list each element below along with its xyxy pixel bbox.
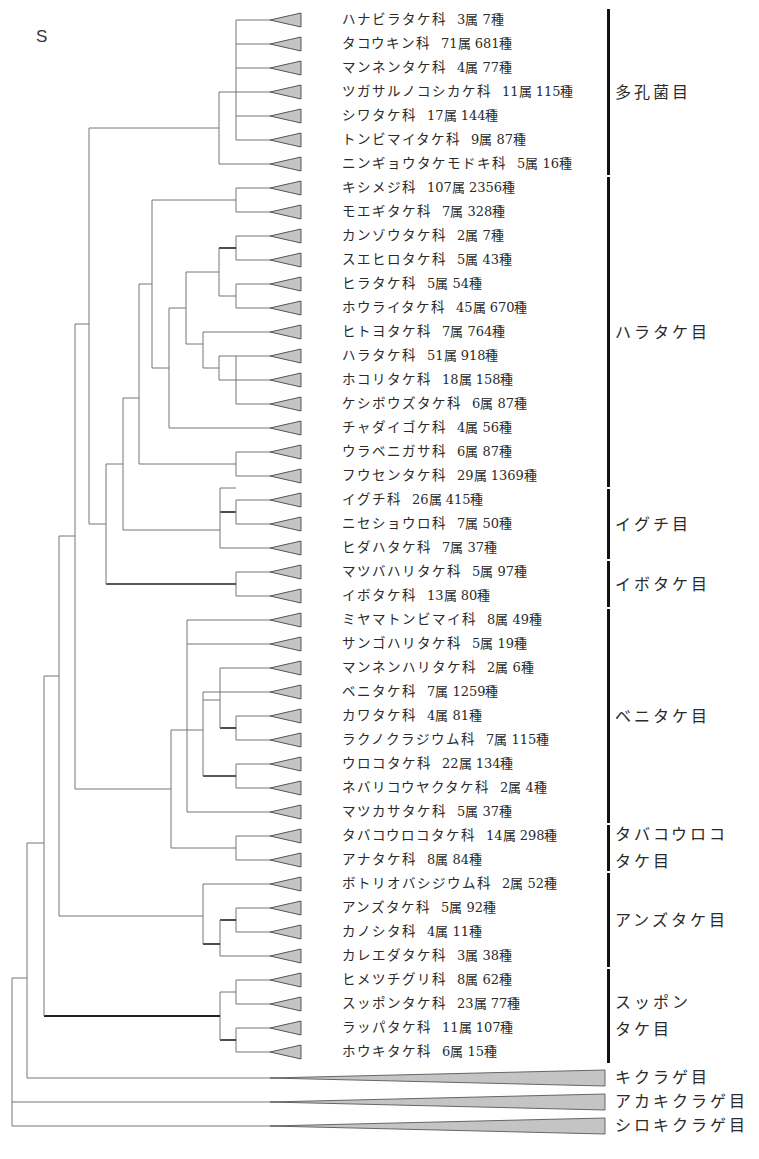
collapsed-clade-triangle-icon [270, 637, 301, 651]
collapsed-clade-triangle-icon [270, 157, 301, 171]
family-name: スエヒロタケ科 [342, 251, 447, 267]
genus-species-count: 4属 56種 [457, 420, 512, 435]
family-label: ホコリタケ科18属 158種 [342, 371, 514, 388]
outgroup-clade-triangle-icon [270, 1118, 605, 1134]
collapsed-clade-triangle-icon [270, 109, 301, 123]
family-name: フウセンタケ科 [342, 467, 447, 483]
family-label: ネバリコウヤクタケ科2属 4種 [342, 779, 547, 796]
collapsed-clade-triangle-icon [270, 13, 301, 27]
family-name: チャダイゴケ科 [342, 419, 447, 435]
genus-species-count: 2属 4種 [500, 780, 547, 795]
collapsed-clade-triangle-icon [270, 517, 301, 531]
collapsed-clade-triangle-icon [270, 805, 301, 819]
family-label: アンズタケ科5属 92種 [342, 899, 496, 916]
family-name: トンビマイタケ科 [342, 131, 461, 147]
family-label: アナタケ科8属 84種 [342, 851, 482, 868]
genus-species-count: 5属 37種 [457, 804, 512, 819]
order-label: スッポンタケ目 [615, 989, 691, 1043]
family-label: フウセンタケ科29属 1369種 [342, 467, 537, 484]
order-label: イボタケ目 [615, 571, 710, 598]
collapsed-clade-triangle-icon [270, 733, 301, 747]
collapsed-clade-triangle-icon [270, 397, 301, 411]
family-label: カノシタ科4属 11種 [342, 923, 482, 940]
family-label: カワタケ科4属 81種 [342, 707, 482, 724]
order-label-line: アンズタケ目 [615, 907, 728, 934]
family-name: ハナビラタケ科 [342, 11, 447, 27]
order-label-line: タバコウロコ [615, 821, 728, 848]
genus-species-count: 6属 87種 [472, 396, 527, 411]
collapsed-clade-triangle-icon [270, 61, 301, 75]
order-label: ベニタケ目 [615, 703, 710, 730]
family-name: キシメジ科 [342, 179, 417, 195]
genus-species-count: 107属 2356種 [427, 180, 515, 195]
family-label: マツカサタケ科5属 37種 [342, 803, 512, 820]
order-bracket-bar [607, 9, 610, 175]
genus-species-count: 4属 81種 [427, 708, 482, 723]
collapsed-clade-triangle-icon [270, 37, 301, 51]
family-name: ツガサルノコシカケ科 [342, 83, 492, 99]
family-name: ラクノクラジウム科 [342, 731, 476, 747]
family-name: ウロコタケ科 [342, 755, 432, 771]
collapsed-clade-triangle-icon [270, 1045, 301, 1059]
family-label: トンビマイタケ科9属 87種 [342, 131, 526, 148]
collapsed-clade-triangle-icon [270, 709, 301, 723]
order-label: 多孔菌目 [615, 79, 691, 106]
genus-species-count: 7属 764種 [442, 324, 505, 339]
family-label: ラクノクラジウム科7属 115種 [342, 731, 549, 748]
order-label-line: イグチ目 [615, 511, 691, 538]
family-name: タコウキン科 [342, 35, 431, 51]
collapsed-clade-triangle-icon [270, 757, 301, 771]
collapsed-clade-triangle-icon [270, 877, 301, 891]
genus-species-count: 5属 92種 [441, 900, 496, 915]
family-name: カワタケ科 [342, 707, 417, 723]
family-label: マツバハリタケ科5属 97種 [342, 563, 527, 580]
family-label: ベニタケ科7属 1259種 [342, 683, 499, 700]
family-label: チャダイゴケ科4属 56種 [342, 419, 512, 436]
order-bracket-bar [607, 609, 610, 823]
family-name: マツバハリタケ科 [342, 563, 462, 579]
family-name: ハラタケ科 [342, 347, 417, 363]
family-name: ヒトヨタケ科 [342, 323, 432, 339]
family-label: ハナビラタケ科3属 7種 [342, 11, 504, 28]
family-name: シワタケ科 [342, 107, 417, 123]
genus-species-count: 18属 158種 [442, 372, 514, 387]
collapsed-clade-triangle-icon [270, 325, 301, 339]
collapsed-clade-triangle-icon [270, 85, 301, 99]
family-label: ツガサルノコシカケ科11属 115種 [342, 83, 574, 100]
family-label: ヒラタケ科5属 54種 [342, 275, 482, 292]
family-name: アンズタケ科 [342, 899, 431, 915]
collapsed-clade-triangle-icon [270, 685, 301, 699]
order-label-line: ベニタケ目 [615, 703, 710, 730]
collapsed-clade-triangle-icon [270, 949, 301, 963]
family-label: カレエダタケ科3属 38種 [342, 947, 512, 964]
family-name: ベニタケ科 [342, 683, 417, 699]
collapsed-clade-triangle-icon [270, 781, 301, 795]
order-bracket-bar [607, 969, 610, 1063]
genus-species-count: 8属 84種 [427, 852, 482, 867]
family-name: カレエダタケ科 [342, 947, 447, 963]
outgroup-order-label: キクラゲ目 [615, 1068, 710, 1088]
collapsed-clade-triangle-icon [270, 205, 301, 219]
family-label: ハラタケ科51属 918種 [342, 347, 499, 364]
family-label: ホウライタケ科45属 670種 [342, 299, 528, 316]
genus-species-count: 3属 7種 [457, 12, 504, 27]
genus-species-count: 8属 49種 [487, 612, 542, 627]
genus-species-count: 5属 97種 [472, 564, 527, 579]
family-label: ヒメツチグリ科8属 62種 [342, 971, 512, 988]
family-label: スッポンタケ科23属 77種 [342, 995, 520, 1012]
genus-species-count: 4属 11種 [427, 924, 482, 939]
family-name: アナタケ科 [342, 851, 417, 867]
family-label: ホウキタケ科6属 15種 [342, 1043, 497, 1060]
collapsed-clade-triangle-icon [270, 253, 301, 267]
family-name: ホウライタケ科 [342, 299, 446, 315]
family-name: モエギタケ科 [342, 203, 432, 219]
order-label-line: タケ目 [615, 848, 728, 875]
family-label: マンネンハリタケ科2属 6種 [342, 659, 534, 676]
family-label: ヒトヨタケ科7属 764種 [342, 323, 505, 340]
collapsed-clade-triangle-icon [270, 133, 301, 147]
order-label: アンズタケ目 [615, 907, 728, 934]
collapsed-clade-triangle-icon [270, 829, 301, 843]
family-label: ニンギョウタケモドキ科5属 16種 [342, 155, 572, 172]
collapsed-clade-triangle-icon [270, 613, 301, 627]
family-label: ウラベニガサ科6属 87種 [342, 443, 512, 460]
